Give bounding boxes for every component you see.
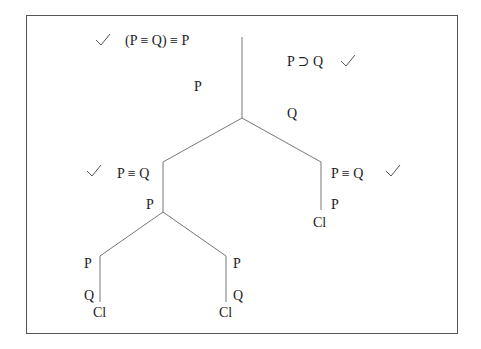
branch-line-left xyxy=(163,118,242,162)
leaf-right-closed: Cl xyxy=(219,306,232,320)
leaf-left-closed: Cl xyxy=(93,306,106,320)
sub-branch-line-left xyxy=(100,212,163,256)
premise-formula: P ⊃ Q xyxy=(287,55,323,69)
sub-branch-line-right xyxy=(163,212,226,256)
trunk-label-p: P xyxy=(194,80,202,94)
leaf-right-label-p: P xyxy=(233,257,241,271)
left-branch-label: P xyxy=(146,198,154,212)
trunk-label-q: Q xyxy=(287,107,297,121)
check-mark-icon xyxy=(385,164,401,178)
right-branch-closed: Cl xyxy=(313,216,326,230)
left-branch-formula: P ≡ Q xyxy=(117,167,149,181)
leaf-right-label-q: Q xyxy=(233,289,243,303)
right-branch-label: P xyxy=(331,198,339,212)
root-formula: (P ≡ Q) ≡ P xyxy=(125,34,189,48)
check-mark-icon xyxy=(86,164,102,178)
branch-line-right xyxy=(242,118,321,162)
leaf-left-label-q: Q xyxy=(84,289,94,303)
check-mark-icon xyxy=(340,54,356,68)
check-mark-icon xyxy=(95,33,111,47)
leaf-left-label-p: P xyxy=(84,257,92,271)
right-branch-formula: P ≡ Q xyxy=(331,167,363,181)
